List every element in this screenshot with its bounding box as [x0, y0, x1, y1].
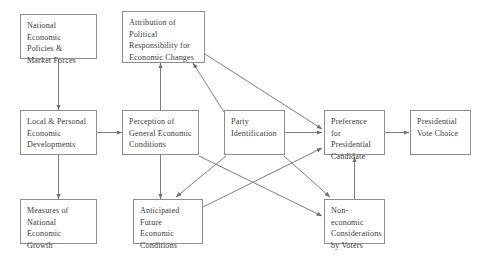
node-perception-of-general-economic-conditions[interactable]: Perception of General Economic Condition…: [122, 110, 199, 155]
edge-perception-to-non-economic: [199, 156, 322, 216]
node-preference-for-presidential-candidate[interactable]: Preference for Presidential Candidate: [324, 110, 385, 155]
edge-party-identification-to-non-economic: [284, 156, 330, 197]
edge-anticipated-to-preference: [203, 148, 322, 207]
node-attribution-of-political-responsibility[interactable]: Attribution of Political Responsibility …: [122, 11, 205, 63]
node-presidential-vote-choice[interactable]: Presidential Vote Choice: [410, 110, 471, 155]
node-national-economic-policies[interactable]: National Economic Policies & Market Forc…: [20, 14, 97, 59]
node-local-personal-economic-developments[interactable]: Local & Personal Economic Developments: [20, 110, 97, 155]
edge-party-identification-to-anticipated: [176, 156, 226, 197]
node-party-identification[interactable]: Party Identification: [224, 110, 285, 155]
node-non-economic-considerations-by-voters[interactable]: Non-economic Considerations by Voters: [324, 199, 385, 244]
node-anticipated-future-economic-conditions[interactable]: Anticipated Future Economic Conditions: [133, 199, 203, 244]
node-measures-of-national-economic-growth[interactable]: Measures of National Economic Growth: [20, 199, 97, 244]
causal-diagram: National Economic Policies & Market Forc…: [0, 0, 490, 262]
edge-party-identification-to-attribution: [193, 63, 224, 112]
